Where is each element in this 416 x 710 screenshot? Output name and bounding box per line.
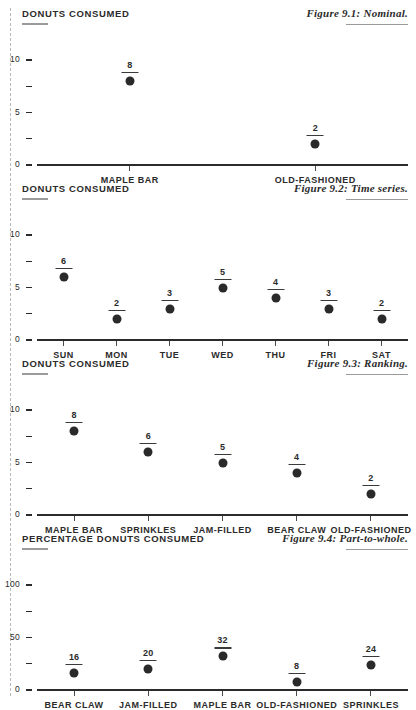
x-axis-tick-mark <box>63 341 64 346</box>
x-axis-tick-mark <box>381 341 382 346</box>
x-axis-tick-mark <box>275 341 276 346</box>
data-point-marker <box>366 490 375 499</box>
data-label-rule <box>307 135 324 136</box>
data-label-rule <box>288 464 305 465</box>
data-point-value-label: 8 <box>71 410 76 420</box>
x-axis-tick-mark <box>296 516 297 521</box>
y-axis-tick-label: 5 <box>0 282 20 292</box>
chart-title: DONUTS CONSUMED <box>22 183 129 194</box>
x-axis-tick-mark <box>370 691 371 696</box>
x-axis-category-label: SPRINKLES <box>343 700 399 710</box>
y-axis-tick-mark <box>26 514 32 515</box>
title-underline-rule <box>22 373 48 375</box>
data-point-marker <box>144 448 153 457</box>
data-label-rule <box>214 454 231 455</box>
data-point-marker <box>165 304 174 313</box>
x-axis-tick-mark <box>222 691 223 696</box>
y-axis-tick-mark <box>26 138 32 139</box>
data-point-value-label: 16 <box>69 652 79 662</box>
x-axis-tick-mark <box>148 516 149 521</box>
data-point-value-label: 8 <box>294 661 299 671</box>
figure-4: PERCENTAGE DONUTS CONSUMEDFigure 9.4: Pa… <box>0 533 416 698</box>
y-axis-tick-mark <box>26 488 32 489</box>
figure-3: DONUTS CONSUMEDFigure 9.3: Ranking.0510M… <box>0 358 416 523</box>
figure-2: DONUTS CONSUMEDFigure 9.2: Time series.0… <box>0 183 416 348</box>
data-point-marker <box>218 652 227 661</box>
x-axis-tick-mark <box>129 166 130 171</box>
caption-underline-rule <box>346 24 408 25</box>
data-point-marker <box>292 469 301 478</box>
data-point-marker <box>271 294 280 303</box>
data-point-marker <box>125 77 134 86</box>
figure-header: DONUTS CONSUMEDFigure 9.3: Ranking. <box>0 358 416 384</box>
title-underline-rule <box>22 198 48 200</box>
data-point-marker <box>112 315 121 324</box>
x-axis-tick-mark <box>169 341 170 346</box>
y-axis-tick-mark <box>26 313 32 314</box>
x-axis-tick-mark <box>74 691 75 696</box>
figure-caption: Figure 9.1: Nominal. <box>306 7 408 19</box>
x-axis-tick-mark <box>315 166 316 171</box>
y-axis-tick-mark <box>26 59 32 60</box>
plot-area: 0510SUN6MON2TUE3WED5THU4FRI3SAT2 <box>0 209 416 348</box>
data-point-marker <box>144 665 153 674</box>
data-point-marker <box>366 660 375 669</box>
data-point-value-label: 2 <box>368 473 373 483</box>
x-axis-tick-mark <box>296 691 297 696</box>
figure-caption: Figure 9.2: Time series. <box>294 182 408 194</box>
x-axis-tick-mark <box>148 691 149 696</box>
data-label-rule <box>288 673 305 674</box>
x-axis-category-label: JAM-FILLED <box>119 700 178 710</box>
x-axis-tick-mark <box>222 341 223 346</box>
y-axis-tick-mark <box>26 663 32 664</box>
data-point-marker <box>218 458 227 467</box>
data-point-marker <box>292 677 301 686</box>
data-point-value-label: 32 <box>217 635 227 645</box>
figure-caption: Figure 9.4: Part-to-whole. <box>282 532 408 544</box>
y-axis-tick-label: 5 <box>0 457 20 467</box>
y-axis-tick-mark <box>26 637 32 638</box>
data-label-rule <box>362 656 379 657</box>
y-axis-tick-label: 10 <box>0 229 20 239</box>
data-point-value-label: 5 <box>220 442 225 452</box>
figure-header: PERCENTAGE DONUTS CONSUMEDFigure 9.4: Pa… <box>0 533 416 559</box>
data-label-rule <box>214 279 231 280</box>
data-point-value-label: 8 <box>127 60 132 70</box>
y-axis-tick-mark <box>26 86 32 87</box>
data-point-value-label: 24 <box>366 644 376 654</box>
plot-area: 050100BEAR CLAW16JAM-FILLED20MAPLE BAR32… <box>0 559 416 698</box>
data-point-value-label: 20 <box>143 648 153 658</box>
data-point-value-label: 2 <box>114 298 119 308</box>
chart-title: PERCENTAGE DONUTS CONSUMED <box>22 533 204 544</box>
data-point-value-label: 2 <box>379 298 384 308</box>
title-underline-rule <box>22 23 48 25</box>
data-label-rule <box>55 268 72 269</box>
chart-title: DONUTS CONSUMED <box>22 8 129 19</box>
y-axis-tick-mark <box>26 287 32 288</box>
data-label-rule <box>108 310 125 311</box>
y-axis-tick-label: 0 <box>0 684 20 694</box>
y-axis-tick-mark <box>26 409 32 410</box>
x-axis-category-label: MAPLE BAR <box>194 700 252 710</box>
data-point-value-label: 2 <box>313 123 318 133</box>
y-axis-tick-label: 0 <box>0 334 20 344</box>
y-axis-tick-mark <box>26 234 32 235</box>
data-label-rule <box>161 300 178 301</box>
x-axis-tick-mark <box>328 341 329 346</box>
x-axis-tick-mark <box>222 516 223 521</box>
y-axis-tick-mark <box>26 339 32 340</box>
data-point-marker <box>70 669 79 678</box>
data-point-value-label: 5 <box>220 267 225 277</box>
y-axis-tick-mark <box>26 164 32 165</box>
x-axis-category-label: OLD-FASHIONED <box>256 700 337 710</box>
data-point-marker <box>218 283 227 292</box>
y-axis-tick-mark <box>26 689 32 690</box>
figure-header: DONUTS CONSUMEDFigure 9.2: Time series. <box>0 183 416 209</box>
y-axis-tick-mark <box>26 261 32 262</box>
data-label-rule <box>121 72 138 73</box>
y-axis-tick-label: 0 <box>0 159 20 169</box>
figure-caption: Figure 9.3: Ranking. <box>307 357 408 369</box>
data-point-value-label: 3 <box>326 288 331 298</box>
data-label-rule <box>373 310 390 311</box>
